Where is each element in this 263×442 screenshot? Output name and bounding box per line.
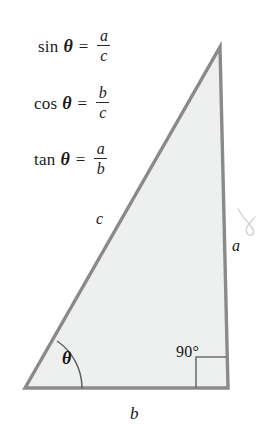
label-angle-theta: θ <box>62 348 71 369</box>
label-opposite-side: a <box>232 237 240 255</box>
trigonometry-figure: sin θ = a c cos θ = b c tan θ = a b <box>0 0 263 442</box>
label-right-angle: 90° <box>176 343 199 361</box>
triangle-shape <box>25 47 228 388</box>
label-adjacent-side: b <box>130 404 139 424</box>
label-hypotenuse: c <box>96 210 103 228</box>
right-triangle-graphic <box>0 0 263 442</box>
